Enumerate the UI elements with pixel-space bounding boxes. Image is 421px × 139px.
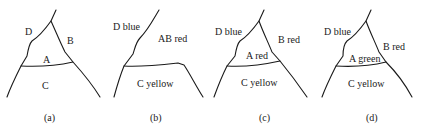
panel-c-region-b-label: B red	[278, 35, 300, 45]
panel-c-region-a-label: A red	[246, 51, 268, 61]
panel-d-region-b-label: B red	[383, 42, 405, 52]
panel-c-region-c-label: C yellow	[241, 78, 277, 88]
panel-b-region-ab-label: AB red	[158, 34, 187, 44]
panel-c-region-d-label: D blue	[215, 27, 242, 37]
panel-a-caption: (a)	[44, 113, 55, 123]
panel-a-boundaries	[7, 10, 100, 97]
panel-b-caption: (b)	[150, 113, 162, 123]
panel-d-region-d-label: D blue	[324, 27, 351, 37]
panel-a-region-c-label: C	[42, 81, 49, 91]
panel-a-region-d-label: D	[25, 27, 32, 37]
panel-d-caption: (d)	[366, 113, 378, 123]
panel-c-caption: (c)	[259, 113, 270, 123]
map-coloring-figure: D B A C (a) D blue AB red C yellow (b) D…	[0, 0, 421, 139]
panel-a-region-a-label: A	[43, 55, 50, 65]
panel-d-region-a-label: A green	[349, 54, 380, 64]
panel-a-region-b-label: B	[67, 36, 74, 46]
panel-b-region-d-label: D blue	[113, 22, 140, 32]
region-boundaries	[0, 0, 421, 139]
panel-b-region-c-label: C yellow	[137, 79, 173, 89]
panel-d-region-c-label: C yellow	[348, 79, 384, 89]
